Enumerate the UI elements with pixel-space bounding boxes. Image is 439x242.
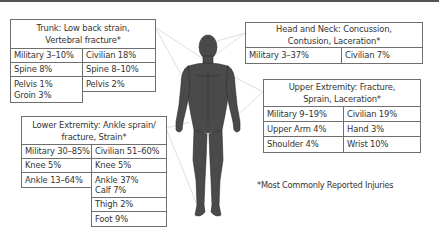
cell-left: Knee 5% <box>22 159 92 173</box>
cell-right: Pelvis 2% <box>83 77 155 91</box>
cell-right: Hand 3% <box>344 122 420 137</box>
lower-extremity-title-line2: fracture, Strain* <box>22 131 166 143</box>
cell-military: Military 3–10% <box>11 49 83 63</box>
trunk-title-line2: Vertebral fracture* <box>11 34 155 46</box>
human-body-figure <box>170 30 250 225</box>
table-row: Upper Arm 4% Hand 3% <box>264 122 420 137</box>
table-row: Calf 7% <box>92 184 166 198</box>
upper-extremity-header: Upper Extremity: Fracture, Sprain, Lacer… <box>264 80 420 107</box>
lower-extremity-title-line1: Lower Extremity: Ankle sprain/ <box>22 119 166 131</box>
trunk-injury-table: Trunk: Low back strain, Vertebral fractu… <box>10 19 156 92</box>
lower-extremity-header: Lower Extremity: Ankle sprain/ fracture,… <box>22 117 166 145</box>
cell-left: Upper Arm 4% <box>264 122 344 137</box>
cell-military: Military 9–19% <box>264 107 344 122</box>
cell-right: Spine 8–10% <box>83 63 155 77</box>
table-row: Knee 5% Knee 5% <box>22 159 166 173</box>
cell-civilian: Civilian 18% <box>83 49 155 63</box>
trunk-header: Trunk: Low back strain, Vertebral fractu… <box>11 20 155 49</box>
trunk-title-line1: Trunk: Low back strain, <box>11 22 155 34</box>
trunk-groin-row: Groin 3% <box>10 88 83 103</box>
cell-right: Wrist 10% <box>344 137 420 152</box>
table-row: Foot 9% <box>92 212 166 226</box>
table-row: Military 3–37% Civilian 7% <box>246 48 422 63</box>
cell-military: Military 3–37% <box>246 48 342 63</box>
cell-civilian: Civilian 19% <box>344 107 420 122</box>
head-neck-title-line1: Head and Neck: Concussion, <box>246 23 422 35</box>
upper-extremity-title-line2: Sprain, Laceration* <box>264 93 420 105</box>
footnote: *Most Commonly Reported Injuries <box>257 180 393 190</box>
table-row: Military 3–10% Civilian 18% <box>11 49 155 63</box>
table-row: Military 9–19% Civilian 19% <box>264 107 420 122</box>
cell-civilian: Civilian 51–60% <box>92 145 166 159</box>
cell-left: Shoulder 4% <box>264 137 344 152</box>
upper-extremity-title-line1: Upper Extremity: Fracture, <box>264 81 420 93</box>
table-row: Shoulder 4% Wrist 10% <box>264 137 420 152</box>
upper-extremity-injury-table: Upper Extremity: Fracture, Sprain, Lacer… <box>263 79 421 153</box>
cell-right: Foot 9% <box>92 212 166 226</box>
cell-right: Calf 7% <box>92 184 166 198</box>
head-neck-header: Head and Neck: Concussion, Contusion, La… <box>246 23 422 48</box>
head-neck-injury-table: Head and Neck: Concussion, Contusion, La… <box>245 22 423 64</box>
cell-left: Groin 3% <box>11 88 83 102</box>
cell-right: Knee 5% <box>92 159 166 173</box>
cell-military: Military 30–85% <box>22 145 92 159</box>
head-neck-title-line2: Contusion, Laceration* <box>246 35 422 47</box>
lower-extremity-civilian-extra-rows: Calf 7% Thigh 2% Foot 9% <box>91 184 167 227</box>
cell-left: Spine 8% <box>11 63 83 77</box>
lower-extremity-injury-table: Lower Extremity: Ankle sprain/ fracture,… <box>21 116 167 188</box>
cell-right: Thigh 2% <box>92 198 166 212</box>
table-row: Military 30–85% Civilian 51–60% <box>22 145 166 159</box>
cell-left: Ankle 13–64% <box>22 173 92 187</box>
table-row: Spine 8% Spine 8–10% <box>11 63 155 77</box>
cell-civilian: Civilian 7% <box>342 48 422 63</box>
table-row: Thigh 2% <box>92 198 166 212</box>
